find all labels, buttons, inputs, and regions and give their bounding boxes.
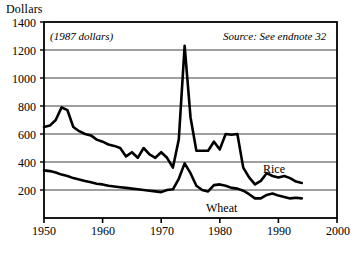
series-line-rice (44, 46, 302, 185)
chart-container: Dollars 1400 1200 1000 800 600 400 200 1… (0, 0, 351, 256)
plot-area (0, 0, 351, 256)
